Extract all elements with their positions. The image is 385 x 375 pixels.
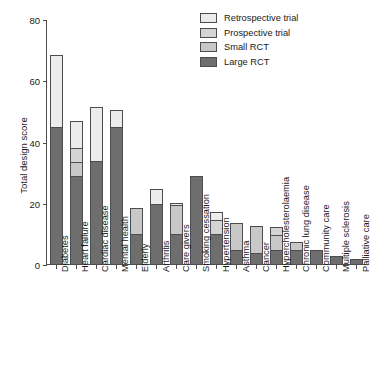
legend-color-swatch	[200, 42, 217, 52]
legend-color-swatch	[200, 13, 217, 23]
bar-segment[interactable]	[90, 107, 103, 162]
legend-label: Small RCT	[224, 42, 269, 52]
x-tick-mark	[116, 265, 117, 269]
x-tick-mark	[156, 265, 157, 269]
x-tick-mark	[56, 265, 57, 269]
y-tick-label: 40	[29, 137, 40, 148]
legend-color-swatch	[200, 57, 217, 67]
x-tick-label: Heart failure	[80, 221, 90, 272]
x-tick-mark	[136, 265, 137, 269]
bar-segment[interactable]	[70, 162, 83, 177]
x-label-slot: Asthma	[227, 272, 247, 372]
x-tick-label: Smoking cessation	[201, 194, 211, 272]
x-tick-mark	[216, 265, 217, 269]
y-tick-label: 0	[35, 260, 40, 271]
x-tick-mark	[176, 265, 177, 269]
x-tick-label: Asthma	[241, 240, 251, 272]
x-tick-label: Hypertension	[221, 217, 231, 272]
legend-item[interactable]: Retrospective trial	[200, 11, 298, 26]
x-tick-mark	[316, 265, 317, 269]
y-tick-mark	[43, 265, 47, 266]
x-tick-mark	[196, 265, 197, 269]
legend-item[interactable]: Large RCT	[200, 55, 298, 70]
legend-color-swatch	[200, 28, 217, 38]
x-label-slot: Diabetes	[46, 272, 66, 372]
x-tick-label: Cardiac disease	[100, 205, 110, 272]
x-label-slot: Chronic lung disease	[287, 272, 307, 372]
x-tick-mark	[296, 265, 297, 269]
x-tick-mark	[356, 265, 357, 269]
x-label-slot: Hypertension	[207, 272, 227, 372]
bar-segment[interactable]	[50, 55, 63, 129]
x-tick-label: Elderly	[140, 244, 150, 272]
y-tick-label: 60	[29, 76, 40, 87]
x-label-slot: Community care	[307, 272, 327, 372]
bar-slot[interactable]	[46, 20, 66, 265]
legend-item[interactable]: Small RCT	[200, 40, 298, 55]
bar-segment[interactable]	[150, 189, 163, 204]
x-tick-label: Arthritis	[161, 240, 171, 272]
x-label-slot: Cardiac disease	[86, 272, 106, 372]
x-tick-label: Care givers	[181, 224, 191, 272]
x-label-slot: Cancer	[247, 272, 267, 372]
x-tick-mark	[96, 265, 97, 269]
y-tick-label: 80	[29, 15, 40, 26]
bar-slot[interactable]	[146, 20, 166, 265]
bar-segment[interactable]	[70, 148, 83, 163]
x-label-slot: Hypercholesterolaemia	[267, 272, 287, 372]
x-label-slot: Care givers	[166, 272, 186, 372]
x-tick-label: Multiple sclerosis	[341, 201, 351, 272]
x-tick-label: Chronic lung disease	[301, 185, 311, 272]
x-label-slot: Palliative care	[347, 272, 367, 372]
x-label-slot: Mental health	[106, 272, 126, 372]
x-tick-label: Cancer	[261, 242, 271, 272]
legend-label: Large RCT	[224, 57, 269, 67]
legend-label: Prospective trial	[224, 28, 290, 38]
x-tick-mark	[76, 265, 77, 269]
x-label-slot: Multiple sclerosis	[327, 272, 347, 372]
bar-segment[interactable]	[70, 121, 83, 149]
legend-label: Retrospective trial	[224, 13, 298, 23]
chart-legend: Retrospective trialProspective trialSmal…	[200, 11, 298, 69]
bar-segment[interactable]	[130, 208, 143, 236]
x-axis-tick-labels: DiabetesHeart failureCardiac diseaseMent…	[46, 272, 367, 372]
x-tick-mark	[336, 265, 337, 269]
x-tick-mark	[236, 265, 237, 269]
x-label-slot: Heart failure	[66, 272, 86, 372]
x-tick-mark	[276, 265, 277, 269]
x-tick-label: Hypercholesterolaemia	[281, 177, 291, 272]
x-tick-mark	[256, 265, 257, 269]
x-label-slot: Elderly	[126, 272, 146, 372]
stacked-bar[interactable]	[50, 55, 63, 265]
bar-chart: Total design score 020406080 DiabetesHea…	[0, 0, 385, 375]
x-tick-label: Diabetes	[60, 235, 70, 272]
bar-segment[interactable]	[110, 110, 123, 128]
x-tick-label: Mental health	[120, 216, 130, 272]
x-label-slot: Arthritis	[146, 272, 166, 372]
x-label-slot: Smoking cessation	[186, 272, 206, 372]
x-tick-label: Palliative care	[361, 214, 371, 272]
legend-item[interactable]: Prospective trial	[200, 26, 298, 41]
y-axis-title: Total design score	[18, 86, 29, 226]
x-tick-label: Community care	[321, 204, 331, 272]
y-tick-label: 20	[29, 198, 40, 209]
